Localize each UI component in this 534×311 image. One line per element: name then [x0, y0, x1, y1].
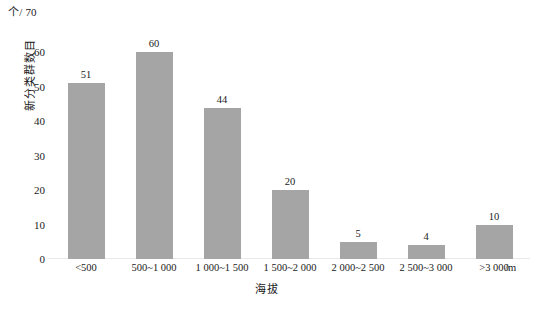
y-tick-label: 50 [34, 81, 45, 92]
x-tick-label: 2 000~2 500 [324, 262, 392, 274]
bar [408, 245, 445, 259]
bar-value-label: 44 [217, 94, 228, 105]
y-tick-label: 30 [34, 150, 45, 161]
y-tick-label: 0 [40, 254, 46, 265]
y-axis-unit-label: 个/ 70 [8, 6, 37, 19]
plot-area: 516044205410 0102030405060 [52, 18, 528, 259]
bar-value-label: 4 [423, 231, 428, 242]
bar-value-label: 60 [149, 38, 160, 49]
bar [204, 108, 241, 259]
x-axis-title: 海拔 [0, 283, 534, 296]
x-axis-tick-labels: <500500~1 0001 000~1 5001 500~2 0002 000… [52, 262, 528, 274]
x-tick-label: >3 000 [460, 262, 528, 274]
bar [340, 242, 377, 259]
bar-value-label: 5 [355, 228, 360, 239]
bar-value-label: 20 [285, 176, 296, 187]
y-tick-label: 20 [34, 185, 45, 196]
bar-chart-figure: 个/ 70 新分类群数目 516044205410 0102030405060 … [0, 0, 534, 311]
bar [476, 225, 513, 259]
x-tick-label: 2 500~3 000 [392, 262, 460, 274]
bar-slot: 5 [324, 18, 392, 259]
bar [68, 83, 105, 259]
x-axis-unit-label: /m [505, 262, 516, 274]
y-tick-label: 40 [34, 116, 45, 127]
bar-series: 516044205410 [52, 18, 528, 259]
bar [272, 190, 309, 259]
x-tick-label: <500 [52, 262, 120, 274]
x-tick-label: 500~1 000 [120, 262, 188, 274]
bar-slot: 51 [52, 18, 120, 259]
y-tick-label: 60 [34, 47, 45, 58]
bar-slot: 60 [120, 18, 188, 259]
bar-slot: 20 [256, 18, 324, 259]
x-tick-label: 1 000~1 500 [188, 262, 256, 274]
bar-value-label: 51 [81, 69, 92, 80]
bar-slot: 4 [392, 18, 460, 259]
bar-value-label: 10 [489, 211, 500, 222]
x-tick-label: 1 500~2 000 [256, 262, 324, 274]
bar [136, 52, 173, 259]
bar-slot: 44 [188, 18, 256, 259]
bar-slot: 10 [460, 18, 528, 259]
y-tick-label: 10 [34, 219, 45, 230]
